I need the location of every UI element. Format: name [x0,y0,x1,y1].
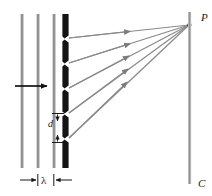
screen-C-label: C [198,178,205,189]
ray-arrowheads [69,31,130,138]
grating-segment-1 [62,14,68,39]
grating-segment-4 [62,90,68,114]
diffraction-grating-figure: P C d λ [0,0,212,196]
observation-screen-line [188,12,191,184]
wavelength-label: λ [41,175,46,186]
wavefront-line-1 [21,14,24,168]
ray-arrowhead-1 [69,31,130,38]
wavefront-line-2 [37,14,40,168]
grating-segment-3 [62,65,68,89]
grating-segment-6 [62,140,68,169]
incident-plane-wavefronts [21,14,56,168]
slit-spacing-label: d [48,119,53,129]
wavefront-line-3 [53,14,56,168]
figure-canvas [0,0,212,196]
diffraction-grating-barrier [62,14,68,168]
grating-segment-5 [62,115,68,139]
observation-screen [188,12,191,184]
point-P-label: P [201,12,208,23]
grating-segment-2 [62,40,68,64]
